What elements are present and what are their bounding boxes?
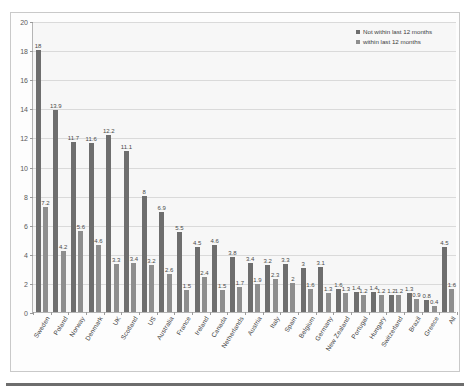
bar[interactable]: 1.2 bbox=[379, 295, 384, 312]
bar-group: 4.52.4 bbox=[195, 22, 207, 312]
bar-group: 3.11.3 bbox=[318, 22, 330, 312]
x-axis-category-label: Denmark bbox=[83, 315, 103, 342]
bar-group: 83.2 bbox=[142, 22, 154, 312]
bar[interactable]: 0.8 bbox=[424, 300, 429, 312]
bar[interactable]: 1.6 bbox=[449, 289, 454, 312]
bar-group: 4.61.5 bbox=[212, 22, 224, 312]
legend-item[interactable]: within last 12 months bbox=[356, 38, 432, 45]
legend-swatch-icon bbox=[356, 40, 360, 44]
y-axis-tick-label: 16 bbox=[20, 77, 28, 84]
bar-value-label: 2.6 bbox=[165, 267, 173, 273]
bar[interactable]: 3.2 bbox=[149, 265, 154, 312]
bar-value-label: 11.1 bbox=[121, 144, 132, 150]
bar[interactable]: 3.3 bbox=[114, 264, 119, 312]
bar-value-label: 2 bbox=[291, 276, 294, 282]
bar-value-label: 3.3 bbox=[281, 257, 289, 263]
bar[interactable]: 1.3 bbox=[326, 293, 331, 312]
bar[interactable]: 4.6 bbox=[96, 245, 101, 312]
x-axis-category-label: Austria bbox=[246, 315, 263, 336]
bar[interactable]: 1.9 bbox=[255, 284, 260, 312]
bar-value-label: 3.1 bbox=[317, 260, 325, 266]
bar[interactable]: 4.5 bbox=[195, 247, 200, 312]
bar-value-label: 3.3 bbox=[112, 257, 120, 263]
bar[interactable]: 1.4 bbox=[354, 292, 359, 312]
bar[interactable]: 11.6 bbox=[89, 143, 94, 312]
bar-value-label: 12.2 bbox=[103, 128, 115, 134]
bar[interactable]: 2.3 bbox=[273, 279, 278, 312]
bar[interactable]: 3.4 bbox=[248, 263, 253, 312]
bar-group: 4.51.6 bbox=[442, 22, 454, 312]
x-axis-category-label: Ireland bbox=[193, 315, 210, 336]
bar[interactable]: 18 bbox=[36, 50, 41, 312]
bar[interactable]: 1.2 bbox=[396, 295, 401, 312]
bar[interactable]: 3.3 bbox=[283, 264, 288, 312]
bar[interactable]: 3.1 bbox=[318, 267, 323, 312]
bar[interactable]: 1.5 bbox=[184, 290, 189, 312]
x-axis-category-label: Brazil bbox=[407, 315, 422, 333]
bar-value-label: 1.9 bbox=[253, 277, 261, 283]
bar[interactable]: 2 bbox=[290, 283, 295, 312]
bar[interactable]: 11.1 bbox=[124, 151, 129, 313]
x-axis-category-label: Poland bbox=[51, 315, 68, 336]
x-axis-labels: SwedenPolandNorwayDenmarkUKScotlandUSAus… bbox=[32, 315, 456, 377]
bar[interactable]: 1.3 bbox=[343, 293, 348, 312]
x-axis-tick-mark bbox=[457, 312, 458, 315]
bar-value-label: 3 bbox=[301, 261, 304, 267]
chart-legend: Not within last 12 monthswithin last 12 … bbox=[356, 28, 432, 45]
bar[interactable]: 3.8 bbox=[230, 257, 235, 312]
bar-group: 31.6 bbox=[301, 22, 313, 312]
bar-value-label: 1.2 bbox=[377, 288, 385, 294]
bar[interactable]: 13.9 bbox=[53, 110, 58, 312]
x-axis-category-label: Italy bbox=[268, 315, 281, 329]
bar-value-label: 8 bbox=[142, 189, 145, 195]
bar[interactable]: 12.2 bbox=[106, 135, 111, 313]
bar-value-label: 1.2 bbox=[395, 288, 403, 294]
x-axis-category-label: All bbox=[447, 315, 457, 325]
bar[interactable]: 8 bbox=[142, 196, 147, 312]
bar[interactable]: 1.3 bbox=[407, 293, 412, 312]
bar-group: 6.92.6 bbox=[159, 22, 171, 312]
bar[interactable]: 4.5 bbox=[442, 247, 447, 312]
bar[interactable]: 4.6 bbox=[212, 245, 217, 312]
bar[interactable]: 0.9 bbox=[414, 299, 419, 312]
bar[interactable]: 3.2 bbox=[265, 265, 270, 312]
bar[interactable]: 1.2 bbox=[389, 295, 394, 312]
x-axis-category-label: Spain bbox=[283, 315, 298, 333]
y-axis-tick-label: 4 bbox=[24, 251, 28, 258]
legend-item[interactable]: Not within last 12 months bbox=[356, 28, 432, 35]
y-axis-tick-label: 20 bbox=[20, 19, 28, 26]
bar-group: 11.13.4 bbox=[124, 22, 136, 312]
bar-value-label: 3.2 bbox=[147, 258, 155, 264]
bar[interactable]: 2.6 bbox=[167, 274, 172, 312]
bar-group: 1.30.9 bbox=[407, 22, 419, 312]
bar[interactable]: 1.6 bbox=[336, 289, 341, 312]
bar-group: 3.22.3 bbox=[265, 22, 277, 312]
legend-label: Not within last 12 months bbox=[363, 28, 432, 35]
bar[interactable]: 3.4 bbox=[131, 263, 136, 312]
y-axis-tick-label: 0 bbox=[24, 310, 28, 317]
bar[interactable]: 7.2 bbox=[43, 207, 48, 312]
bar[interactable]: 1.2 bbox=[361, 295, 366, 312]
bar[interactable]: 11.7 bbox=[71, 142, 76, 312]
bar[interactable]: 0.4 bbox=[432, 306, 437, 312]
bar[interactable]: 1.4 bbox=[371, 292, 376, 312]
bar-value-label: 2.3 bbox=[271, 272, 279, 278]
bar[interactable]: 2.4 bbox=[202, 277, 207, 312]
bar[interactable]: 1.6 bbox=[308, 289, 313, 312]
x-axis-category-label: Belgium bbox=[297, 315, 316, 339]
bar[interactable]: 5.5 bbox=[177, 232, 182, 312]
bar[interactable]: 5.6 bbox=[78, 231, 83, 312]
bar[interactable]: 4.2 bbox=[61, 251, 66, 312]
bar-value-label: 1.5 bbox=[183, 283, 191, 289]
bar-group: 3.32 bbox=[283, 22, 295, 312]
bar[interactable]: 3 bbox=[301, 268, 306, 312]
y-axis-tick-label: 8 bbox=[24, 193, 28, 200]
bar-value-label: 4.5 bbox=[193, 240, 201, 246]
bar[interactable]: 1.5 bbox=[220, 290, 225, 312]
x-axis-category-label: France bbox=[175, 315, 192, 336]
bar-group: 1.21.2 bbox=[389, 22, 401, 312]
bars-layer: 187.213.94.211.75.611.64.612.23.311.13.4… bbox=[33, 22, 456, 312]
bar[interactable]: 6.9 bbox=[159, 212, 164, 312]
bar-value-label: 1.2 bbox=[359, 288, 367, 294]
bar[interactable]: 1.7 bbox=[237, 287, 242, 312]
